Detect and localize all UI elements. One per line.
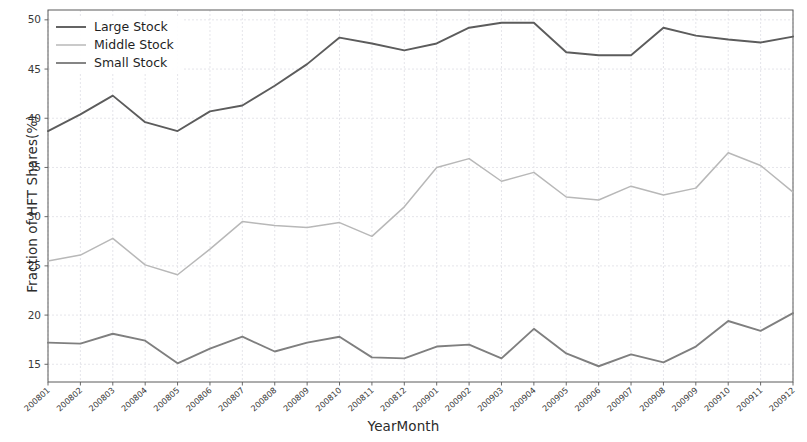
x-tick-label: 200910 — [702, 385, 732, 413]
y-axis-title: Fraction of HFT Shares(%) — [24, 54, 40, 354]
x-tick-label: 200807 — [216, 385, 246, 413]
x-tick-label: 200808 — [249, 385, 279, 413]
x-tick-label: 200903 — [475, 385, 505, 413]
x-tick-label: 200803 — [87, 385, 117, 413]
x-tick-label: 200811 — [346, 385, 376, 413]
x-axis-title: YearMonth — [0, 418, 807, 434]
x-tick-label: 200904 — [508, 385, 538, 413]
x-tick-label: 200805 — [151, 385, 181, 413]
x-tick-label: 200911 — [735, 385, 765, 413]
x-tick-label: 200909 — [670, 385, 700, 413]
y-tick-label: 50 — [28, 13, 41, 25]
x-tick-label: 200802 — [54, 385, 84, 413]
x-tick-label: 200905 — [540, 385, 570, 413]
x-tick-label: 200810 — [313, 385, 343, 413]
legend-label[interactable]: Large Stock — [94, 19, 168, 34]
legend: Large StockMiddle StockSmall Stock — [52, 16, 182, 72]
x-tick-label: 200912 — [767, 385, 797, 413]
x-tick-label: 200902 — [443, 385, 473, 413]
x-tick-label: 200908 — [637, 385, 667, 413]
line-chart: 2008012008022008032008042008052008062008… — [0, 0, 807, 442]
x-tick-label: 200901 — [411, 385, 441, 413]
x-tick-label: 200804 — [119, 385, 149, 413]
legend-label[interactable]: Small Stock — [94, 55, 168, 70]
x-tick-label: 200801 — [22, 385, 52, 413]
x-tick-label: 200906 — [573, 385, 603, 413]
x-tick-label: 200812 — [378, 385, 408, 413]
x-tick-label: 200806 — [184, 385, 214, 413]
x-tick-label: 200907 — [605, 385, 635, 413]
plot-area: 2008012008022008032008042008052008062008… — [0, 0, 807, 442]
y-tick-label: 15 — [28, 358, 41, 370]
legend-label[interactable]: Middle Stock — [94, 37, 175, 52]
x-tick-label: 200809 — [281, 385, 311, 413]
